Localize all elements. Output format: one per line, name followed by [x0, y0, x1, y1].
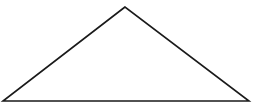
- diagram-canvas: [0, 0, 254, 112]
- triangle-figure: [0, 0, 254, 112]
- triangle: [3, 7, 249, 101]
